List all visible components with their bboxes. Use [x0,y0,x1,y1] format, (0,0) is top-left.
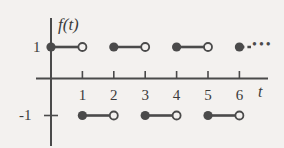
y-value-label-positive-one: 1 [33,40,41,55]
open-dot-t5-high [204,43,212,51]
x-tick-label-2: 2 [104,88,124,103]
x-tick-label-5: 5 [198,88,218,103]
closed-dot-t1 [78,111,87,120]
open-dot-t1-high [78,43,86,51]
y-value-label-negative-one: -1 [19,108,32,123]
plot-canvas [0,0,284,148]
x-axis-ticks [82,71,239,79]
continuation-ellipsis: ••• [252,38,273,52]
open-dot-t4-low [173,112,181,120]
closed-dot-t6 [235,42,244,51]
closed-dot-t3 [141,111,150,120]
x-tick-label-4: 4 [167,88,187,103]
closed-dot-t0 [46,42,55,51]
axis-lines [36,18,268,146]
x-tick-label-1: 1 [72,88,92,103]
x-tick-label-3: 3 [135,88,155,103]
closed-dot-t2 [109,42,118,51]
open-dot-t6-low [235,112,243,120]
open-dot-t2-low [110,112,118,120]
function-label: f(t) [58,16,79,33]
x-axis-label: t [258,84,262,100]
figure-container: f(t) t 1 -1 1 2 3 4 5 6 ••• [0,0,284,148]
waveform-segments [51,47,251,116]
closed-dot-t4 [172,42,181,51]
x-tick-label-6: 6 [229,88,249,103]
open-endpoint-dots [78,43,243,120]
closed-endpoint-dots [46,42,244,120]
open-dot-t3-high [141,43,149,51]
closed-dot-t5 [203,111,212,120]
